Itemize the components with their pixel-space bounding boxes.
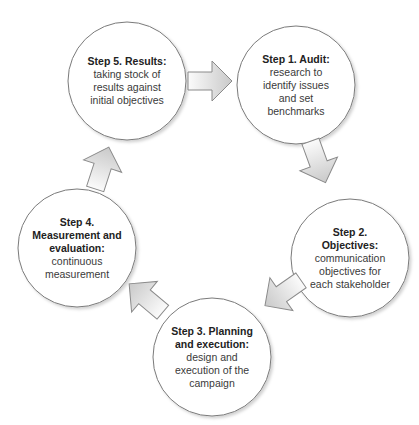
step2-desc-line: each stakeholder bbox=[310, 278, 390, 291]
step5-title-line: Step 5. Results: bbox=[88, 55, 167, 68]
step5-description: taking stock of results against initial … bbox=[90, 68, 164, 107]
step1-title: Step 1. Audit: bbox=[262, 53, 329, 66]
step4-description: continuous measurement bbox=[45, 255, 109, 281]
step5-label: Step 5. Results: taking stock of results… bbox=[72, 41, 182, 121]
step4-title-line: Measurement and bbox=[32, 229, 121, 242]
step2-title-line: Step 2. bbox=[322, 226, 379, 239]
step5-desc-line: initial objectives bbox=[90, 94, 164, 107]
step2-desc-line: objectives for bbox=[310, 265, 390, 278]
step1-desc-line: identify issues bbox=[263, 79, 329, 92]
step4-desc-line: continuous bbox=[45, 255, 109, 268]
step4-title: Step 4. Measurement and evaluation: bbox=[32, 216, 121, 255]
step1-desc-line: research to bbox=[263, 66, 329, 79]
step2-title-line: Objectives: bbox=[322, 239, 379, 252]
step3-title-line: Step 3. Planning bbox=[171, 325, 253, 338]
step1-desc-line: and set bbox=[263, 92, 329, 105]
step1-description: research to identify issues and set benc… bbox=[263, 66, 329, 118]
step1-title-line: Step 1. Audit: bbox=[262, 53, 329, 66]
step5-title: Step 5. Results: bbox=[88, 55, 167, 68]
step4-desc-line: measurement bbox=[45, 268, 109, 281]
step4-label: Step 4. Measurement and evaluation: cont… bbox=[22, 208, 132, 288]
arrow-right-icon bbox=[188, 61, 232, 101]
step4-title-line: Step 4. bbox=[32, 216, 121, 229]
step2-label: Step 2. Objectives: communication object… bbox=[295, 218, 405, 298]
step3-title-line: and execution: bbox=[171, 338, 253, 351]
arrow-up-right-icon bbox=[76, 141, 128, 195]
step3-title: Step 3. Planning and execution: bbox=[171, 325, 253, 351]
step5-desc-line: taking stock of bbox=[90, 68, 164, 81]
step1-desc-line: benchmarks bbox=[263, 105, 329, 118]
step3-desc-line: campaign bbox=[175, 377, 249, 390]
step1-label: Step 1. Audit: research to identify issu… bbox=[241, 45, 351, 125]
step5-desc-line: results against bbox=[90, 81, 164, 94]
step2-description: communication objectives for each stakeh… bbox=[310, 252, 390, 291]
step3-desc-line: design and bbox=[175, 351, 249, 364]
step2-title: Step 2. Objectives: bbox=[322, 226, 379, 252]
step4-title-line: evaluation: bbox=[32, 242, 121, 255]
step3-label: Step 3. Planning and execution: design a… bbox=[157, 317, 267, 397]
step3-description: design and execution of the campaign bbox=[175, 351, 249, 390]
step3-desc-line: execution of the bbox=[175, 364, 249, 377]
step2-desc-line: communication bbox=[310, 252, 390, 265]
